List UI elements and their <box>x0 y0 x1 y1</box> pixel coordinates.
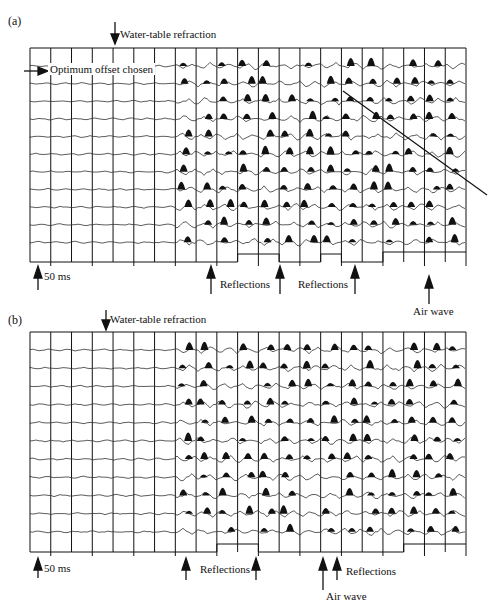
reflection-arrow-icon <box>182 558 190 570</box>
reflection-arrow-icon <box>333 558 341 570</box>
seismic-records-graphic <box>0 0 501 610</box>
reflection-arrow-icon <box>351 266 359 278</box>
panel-a-record <box>30 48 487 266</box>
optimum-offset-arrow-icon <box>38 67 48 75</box>
scale-arrow-icon <box>34 558 42 570</box>
water-table-arrow-icon <box>102 320 110 330</box>
air-wave-arrow-icon <box>425 276 433 288</box>
reflection-arrow-icon <box>252 558 260 570</box>
panel-b-arrows <box>34 310 341 590</box>
panel-a-optimum-offset-label: Optimum offset chosen <box>48 63 155 75</box>
panel-b-record <box>30 332 466 556</box>
reflection-arrow-icon <box>276 266 284 278</box>
scale-arrow-icon <box>34 266 42 278</box>
reflection-arrow-icon <box>207 266 215 278</box>
air-wave-arrow-icon <box>319 558 327 570</box>
water-table-arrowhead-icon <box>111 34 119 44</box>
